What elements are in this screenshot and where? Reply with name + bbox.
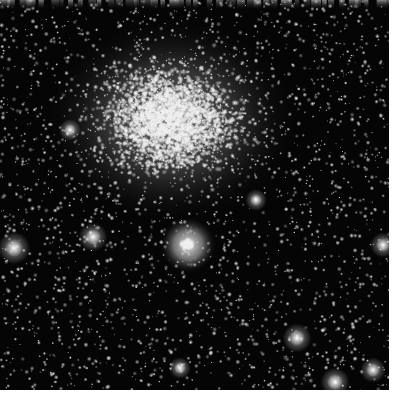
- star-field-canvas: [0, 0, 389, 390]
- star-cluster-image: [0, 0, 389, 390]
